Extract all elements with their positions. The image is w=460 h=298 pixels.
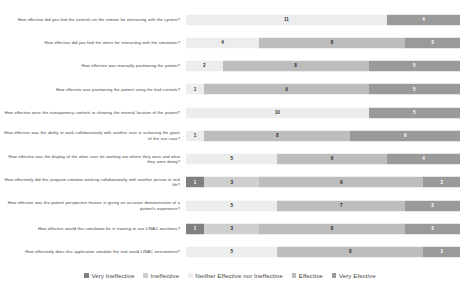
bar-track: 582 [186,241,460,264]
question-label: How effective was the patient perspectiv… [0,200,186,211]
stacked-bar: 483 [186,37,460,48]
legend-item[interactable]: Ineffective [143,272,179,279]
segment-value: 5 [413,64,416,69]
bar-segment: 4 [387,154,460,165]
segment-value: 8 [331,227,334,232]
bar-segment: 9 [204,84,368,95]
stacked-bar: 582 [186,247,460,258]
bar-segment: 7 [277,200,405,211]
bar-segment: 3 [204,224,259,235]
segment-value: 8 [276,134,279,139]
chart-row: How effective was manually positioning t… [0,55,460,78]
bar-segment: 8 [204,130,350,141]
stacked-bar: 114 [186,14,460,25]
bar-segment: 9 [259,177,423,188]
legend-item[interactable]: Neither Effective nor Ineffective [188,272,283,279]
question-label: How effective was manually positioning t… [0,63,186,69]
chart-row: How effective did you find the controls … [0,8,460,31]
segment-value: 5 [230,157,233,162]
segment-value: 7 [340,203,343,208]
legend-label: Neither Effective nor Ineffective [195,272,282,279]
legend-swatch-icon [332,273,337,278]
question-label: How effectively did this program simulat… [0,177,186,188]
segment-value: 8 [331,41,334,46]
segment-value: 10 [275,110,280,115]
stacked-bar: 186 [186,130,460,141]
bar-segment: 4 [186,37,259,48]
bar-segment: 1 [186,224,204,235]
stacked-bar: 195 [186,84,460,95]
bar-segment: 8 [259,37,405,48]
chart-row: How effectively did this program simulat… [0,171,460,194]
stacked-bar: 1383 [186,224,460,235]
segment-value: 4 [221,41,224,46]
bar-segment: 2 [423,177,460,188]
stacked-bar: 573 [186,200,460,211]
chart-row: How effective were the transparency cont… [0,101,460,124]
bar-segment: 1 [186,84,204,95]
bar-segment: 8 [259,224,405,235]
bar-segment: 8 [223,61,369,72]
bar-segment: 8 [277,247,423,258]
question-label: How effectively does this application si… [0,249,186,255]
question-label: How effective would this simulation be i… [0,226,186,232]
bar-segment: 3 [204,177,259,188]
question-label: How effective was positioning the patien… [0,87,186,93]
bar-segment: 1 [186,177,204,188]
segment-value: 6 [331,157,334,162]
segment-value: 5 [413,87,416,92]
chart-row: How effective did you find the menu for … [0,31,460,54]
segment-value: 5 [230,203,233,208]
bar-track: 564 [186,148,460,171]
bar-segment: 4 [387,14,460,25]
question-label: How effective did you find the controls … [0,17,186,23]
bar-track: 105 [186,101,460,124]
bar-segment: 1 [186,130,204,141]
segment-value: 1 [194,227,197,232]
legend-item[interactable]: Very Ineffective [84,272,134,279]
bar-track: 483 [186,31,460,54]
bar-segment: 6 [350,130,460,141]
segment-value: 3 [230,227,233,232]
stacked-bar: 105 [186,107,460,118]
segment-value: 3 [230,180,233,185]
bar-track: 1392 [186,171,460,194]
legend-label: Very Ineffective [91,272,134,279]
legend-label: Very Efective [339,272,376,279]
legend-label: Effective [299,272,323,279]
segment-value: 2 [203,64,206,69]
legend-item[interactable]: Effective [292,272,323,279]
legend-item[interactable]: Very Efective [332,272,376,279]
stacked-bar: 1392 [186,177,460,188]
bar-track: 285 [186,55,460,78]
legend-swatch-icon [84,273,89,278]
segment-value: 9 [285,87,288,92]
segment-value: 3 [431,41,434,46]
question-label: How effective was the ability to work co… [0,130,186,141]
chart-row: How effective would this simulation be i… [0,217,460,240]
segment-value: 6 [404,134,407,139]
chart-row: How effective was the patient perspectiv… [0,194,460,217]
bar-segment: 5 [186,154,277,165]
segment-value: 1 [194,180,197,185]
segment-value: 4 [422,157,425,162]
bar-track: 573 [186,194,460,217]
bar-track: 186 [186,124,460,147]
bar-segment: 5 [186,200,277,211]
bar-segment: 10 [186,107,369,118]
stacked-bar: 564 [186,154,460,165]
bar-segment: 5 [369,107,460,118]
bar-segment: 2 [423,247,460,258]
chart-row: How effective was positioning the patien… [0,78,460,101]
question-label: How effective did you find the menu for … [0,40,186,46]
segment-value: 3 [431,203,434,208]
likert-stacked-bar-chart: How effective did you find the controls … [0,0,460,298]
segment-value: 1 [194,87,197,92]
segment-value: 9 [340,180,343,185]
bar-segment: 11 [186,14,387,25]
segment-value: 11 [284,17,289,22]
segment-value: 5 [230,250,233,255]
bar-track: 1383 [186,217,460,240]
bar-segment: 5 [369,61,460,72]
bar-track: 195 [186,78,460,101]
